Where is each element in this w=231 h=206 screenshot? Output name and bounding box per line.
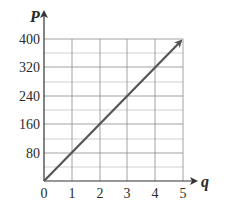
x-tick-2: 2 [97, 186, 104, 201]
x-axis-label: q [201, 173, 209, 191]
y-axis-label: P [29, 8, 40, 25]
x-tick-4: 4 [152, 186, 159, 201]
x-tick-0: 0 [41, 186, 48, 201]
x-tick-5: 5 [180, 186, 187, 201]
y-tick-80: 80 [26, 146, 40, 161]
y-tick-160: 160 [19, 117, 40, 132]
y-tick-320: 320 [19, 60, 40, 75]
x-tick-3: 3 [124, 186, 131, 201]
x-tick-1: 1 [69, 186, 76, 201]
series-line [44, 41, 181, 181]
y-tick-400: 400 [19, 32, 40, 47]
y-tick-240: 240 [19, 89, 40, 104]
chart: P q 400 320 240 160 80 0 1 2 3 4 5 [0, 0, 231, 206]
